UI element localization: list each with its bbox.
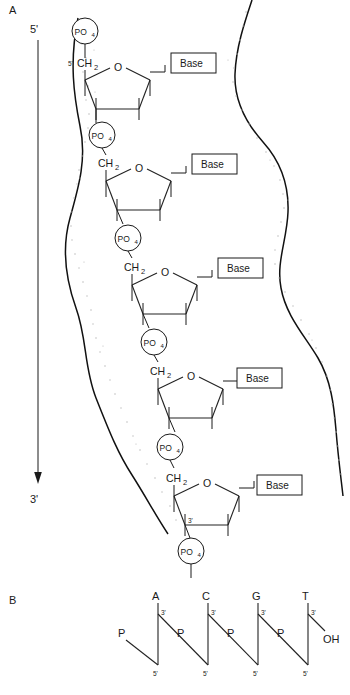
phosphate-group-5-bottom: PO 4 xyxy=(178,538,204,564)
bond-p-to-c5-3 xyxy=(128,251,132,258)
bond-c3-to-p-5 xyxy=(185,525,190,538)
panel-b-residue-4: T 3' 5' OH xyxy=(302,590,340,677)
ring-oxygen-3: O xyxy=(161,266,169,278)
three-prime-label-1: 3' xyxy=(161,609,166,616)
three-prime-label-2: 3' xyxy=(211,609,216,616)
base-letter-4: T xyxy=(302,590,309,602)
nucleotide-unit-2: PO 4 CH 2 O Base xyxy=(89,122,237,224)
three-prime-label-3: 3' xyxy=(261,609,266,616)
nucleic-acid-structure-figure: A 5' 3' xyxy=(0,0,350,695)
phosphate-group-4-top: PO 4 xyxy=(141,329,167,355)
carbon-label-3: CH xyxy=(124,261,139,273)
five-prime-label-2: 5' xyxy=(203,670,208,677)
bond-res3-3prime-to-p3 xyxy=(258,614,308,665)
phosphate-group-3-top: PO 4 xyxy=(115,225,141,251)
nucleotide-unit-4: PO 4 CH 2 O Base xyxy=(141,329,282,432)
base-label-2: Base xyxy=(201,159,224,170)
bond-p-to-c5-4 xyxy=(154,355,158,362)
arrow-head xyxy=(34,472,42,484)
five-prime-label-3: 5' xyxy=(253,670,258,677)
carbon-subscript-2: 2 xyxy=(115,163,119,172)
base-label-1: Base xyxy=(180,58,203,69)
phosphate-label: PO xyxy=(92,131,105,141)
bond-p-to-c5-5 xyxy=(170,460,174,468)
carbon-label-4: CH xyxy=(150,365,165,377)
three-prime-label-4: 3' xyxy=(311,609,316,616)
carbon-subscript-5: 2 xyxy=(183,478,187,487)
base-label-3: Base xyxy=(227,263,250,274)
base-label-5: Base xyxy=(266,480,289,491)
nucleotide-unit-5: PO 4 CH 2 O 3' Base PO 4 xyxy=(157,434,302,578)
five-prime-label-4: 5' xyxy=(303,670,308,677)
carbon-subscript-1: 2 xyxy=(94,63,98,72)
panel-b-label: B xyxy=(9,594,16,606)
phosphate-label-1: P xyxy=(177,627,184,639)
envelope-left-edge xyxy=(65,18,168,534)
base-label-4: Base xyxy=(246,373,269,384)
five-prime-label-1: 5' xyxy=(153,670,158,677)
base-letter-1: A xyxy=(152,590,160,602)
bond-c3-to-p-4 xyxy=(169,418,175,432)
c5-prime-label-1: 5' xyxy=(68,60,73,67)
direction-arrow: 5' 3' xyxy=(30,23,42,505)
nucleotide-unit-1: PO 4 5' CH 2 O Base xyxy=(68,18,216,123)
carbon-label-2: CH xyxy=(98,157,113,169)
bond-res1-3prime-to-p1 xyxy=(158,614,208,665)
terminal-hydroxyl-label: OH xyxy=(323,633,340,645)
phosphate-group-1-top: PO 4 xyxy=(72,18,98,44)
base-letter-2: C xyxy=(202,590,210,602)
phosphate-label: PO xyxy=(144,338,157,348)
ring-oxygen-1: O xyxy=(114,61,122,73)
nucleotide-unit-3: PO 4 CH 2 O Base xyxy=(115,225,263,328)
bond-res2-3prime-to-p2 xyxy=(208,614,258,665)
bond-res4-3prime-to-oh xyxy=(308,614,325,631)
carbon-label-1: CH xyxy=(77,57,92,69)
phosphate-label-3: P xyxy=(277,627,284,639)
phosphate-label-0: P xyxy=(118,627,125,639)
backbone-envelope xyxy=(65,0,343,534)
bond-p-to-c5-2 xyxy=(102,148,106,155)
ring-oxygen-2: O xyxy=(135,162,143,174)
phosphate-label: PO xyxy=(118,234,131,244)
ring-oxygen-5: O xyxy=(203,477,211,489)
phosphate-label: PO xyxy=(160,443,173,453)
phosphate-group-2-top: PO 4 xyxy=(89,122,115,148)
phosphate-label: PO xyxy=(75,27,88,37)
phosphate-group-5-top: PO 4 xyxy=(157,434,183,460)
phosphate-label: PO xyxy=(181,547,194,557)
carbon-subscript-3: 2 xyxy=(141,267,145,276)
ring-oxygen-4: O xyxy=(187,370,195,382)
bond-p0-to-res1-5prime xyxy=(126,640,158,665)
bond-c3-to-p-2 xyxy=(117,210,123,224)
three-prime-label: 3' xyxy=(30,493,38,505)
five-prime-label: 5' xyxy=(30,23,38,35)
panel-a-label: A xyxy=(9,4,17,16)
stipple-right xyxy=(227,11,341,474)
envelope-right-edge xyxy=(235,0,343,496)
bond-c3-to-p-3 xyxy=(143,314,149,328)
panel-b-backbone-diagram: P A 3' 5' P C 3' 5' P G 3' 5' xyxy=(118,590,340,677)
carbon-label-5: CH xyxy=(166,472,181,484)
sugar-prime-label-5: 3' xyxy=(188,517,193,524)
carbon-subscript-4: 2 xyxy=(167,371,171,380)
phosphate-label-2: P xyxy=(227,627,234,639)
base-letter-3: G xyxy=(252,590,261,602)
